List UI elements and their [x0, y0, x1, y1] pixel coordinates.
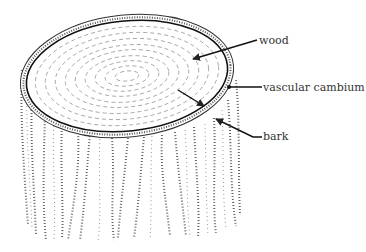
label-bark: bark — [263, 131, 289, 143]
label-wood: wood — [259, 35, 289, 47]
cambium-leader-dot — [227, 85, 231, 89]
label-vascular-cambium: vascular cambium — [263, 82, 365, 94]
stump-illustration — [0, 0, 366, 252]
